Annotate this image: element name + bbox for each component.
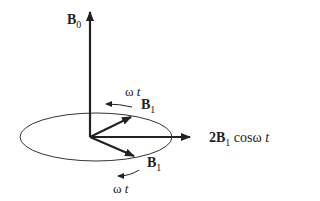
b1-upper-arrow: [90, 117, 131, 137]
b1-lower-label: B1: [147, 156, 161, 170]
rotation-upper-arrow: [106, 104, 132, 107]
b1-lower-arrow: [90, 137, 134, 156]
rotation-lower-arrow: [118, 170, 139, 176]
omega-t-lower-label: ω t: [113, 182, 128, 195]
b1-upper-label: B1: [141, 98, 155, 112]
b0-label: B0: [67, 13, 81, 27]
omega-t-upper-label: ω t: [125, 85, 140, 98]
sum-label: 2B1 cosω t: [209, 131, 269, 145]
